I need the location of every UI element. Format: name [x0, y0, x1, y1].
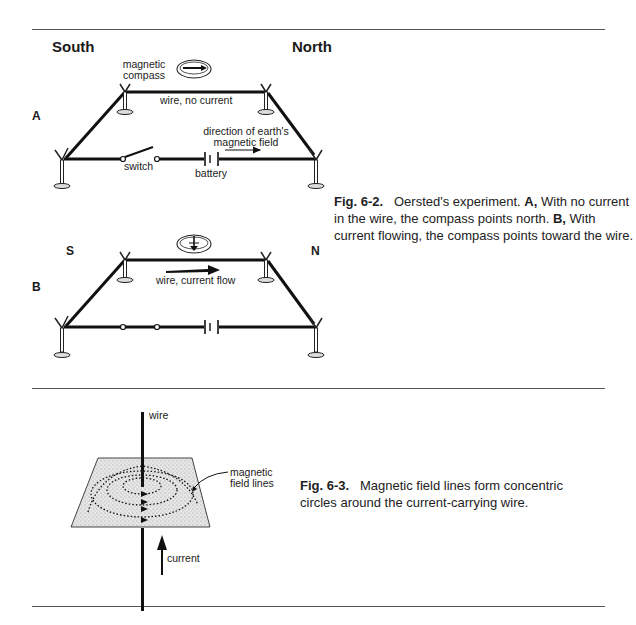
n-label: N [311, 244, 320, 258]
fig-6-2-a: A, [524, 194, 537, 209]
current-label: current [167, 553, 200, 564]
battery-label: battery [195, 168, 227, 179]
compass-b-icon [177, 235, 211, 253]
panel-a-label: A [32, 109, 41, 123]
panel-b-label: B [32, 280, 41, 294]
post-icons-b [54, 252, 324, 358]
field-lines-label: magnetic field lines [230, 467, 274, 489]
s-label: S [66, 244, 74, 258]
compass-a-icon [177, 60, 211, 78]
fig-6-3-number: Fig. 6-3. [300, 478, 349, 493]
wire-label: wire [149, 410, 168, 421]
fig-6-2-b: B, [553, 211, 566, 226]
wire-no-current-label: wire, no current [160, 95, 232, 106]
magnetic-field-diagram [71, 412, 228, 611]
wire-current-flow-label: wire, current flow [156, 275, 235, 286]
magnetic-compass-line2: compass [118, 70, 170, 81]
direction-field-label: direction of earth's magnetic field [200, 126, 292, 148]
fig-6-2-caption: Fig. 6-2. Oersted's experiment. A, With … [334, 193, 634, 244]
switch-label: switch [124, 161, 153, 172]
fig-6-2-number: Fig. 6-2. [334, 194, 383, 209]
magnetic-compass-label: magnetic compass [118, 59, 170, 81]
south-label: South [52, 38, 95, 55]
north-label: North [292, 38, 332, 55]
oersted-experiment-diagram [0, 0, 636, 625]
direction-field-line2: magnetic field [200, 137, 292, 148]
fig-6-2-text1: Oersted's experiment. [394, 194, 521, 209]
fig-6-3-caption: Fig. 6-3. Magnetic field lines form conc… [300, 477, 600, 511]
field-lines-line2: field lines [230, 478, 274, 489]
